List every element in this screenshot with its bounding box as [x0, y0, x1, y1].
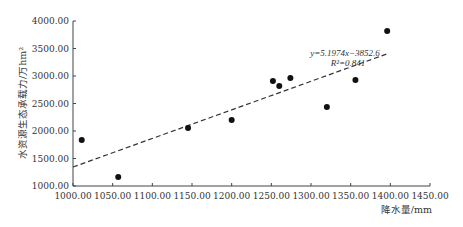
y-tick-label: 3000.00 — [32, 71, 69, 81]
trendline — [73, 54, 386, 167]
x-tick-label: 1000.00 — [54, 191, 91, 201]
data-point — [276, 83, 282, 89]
x-tick-label: 1300.00 — [292, 191, 329, 201]
scatter-chart: 1000.001050.001100.001150.001200.001250.… — [0, 0, 463, 227]
data-point — [115, 174, 121, 180]
x-tick-label: 1400.00 — [372, 191, 409, 201]
x-tick-label: 1250.00 — [253, 191, 290, 201]
regression-equation: y=5.1974x−3852.6 — [309, 48, 380, 58]
x-tick-label: 1350.00 — [332, 191, 369, 201]
y-tick-label: 1500.00 — [32, 154, 69, 164]
x-tick-label: 1150.00 — [173, 191, 210, 201]
data-point — [270, 78, 276, 84]
data-point — [287, 75, 293, 81]
x-tick-label: 1200.00 — [213, 191, 250, 201]
y-axis-label: 水资源生态承载力/万hm² — [17, 47, 28, 159]
x-tick-label: 1450.00 — [411, 191, 448, 201]
y-tick-label: 3500.00 — [32, 44, 69, 54]
x-axis-label: 降水量/mm — [381, 204, 432, 215]
y-tick-label: 2000.00 — [32, 126, 69, 136]
y-tick-label: 2500.00 — [32, 99, 69, 109]
data-point — [185, 125, 191, 131]
data-point — [79, 137, 85, 143]
x-tick-label: 1050.00 — [94, 191, 131, 201]
data-point — [229, 117, 235, 123]
axes: 1000.001050.001100.001150.001200.001250.… — [32, 16, 449, 201]
data-point — [384, 28, 390, 34]
x-tick-label: 1100.00 — [134, 191, 171, 201]
y-tick-label: 1000.00 — [32, 181, 69, 191]
r-squared-label: R²=0.841 — [330, 58, 366, 68]
y-tick-label: 4000.00 — [32, 16, 69, 26]
data-point — [324, 104, 330, 110]
data-point — [352, 77, 358, 83]
